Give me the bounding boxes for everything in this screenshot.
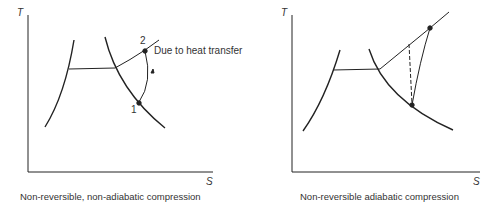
left-process-curve (139, 51, 148, 102)
left-axes (28, 15, 213, 172)
left-x-axis-label: S (206, 176, 213, 187)
left-caption: Non-reversible, non-adiabatic compressio… (20, 191, 201, 202)
point-1-label: 1 (131, 104, 137, 115)
right-liquid-line (303, 50, 340, 131)
right-axes (292, 15, 480, 172)
diagram-canvas (0, 0, 483, 206)
right-isentropic-dashed (409, 44, 412, 104)
right-y-axis-label: T (281, 7, 287, 18)
left-liquid-line (45, 40, 74, 127)
point-2-label: 2 (140, 35, 146, 46)
left-y-axis-label: T (17, 7, 23, 18)
right-process-curve (412, 28, 430, 105)
heat-transfer-annotation: Due to heat transfer (154, 45, 242, 56)
right-caption: Non-reversible adiabatic compression (300, 191, 459, 202)
right-x-axis-label: S (473, 176, 480, 187)
